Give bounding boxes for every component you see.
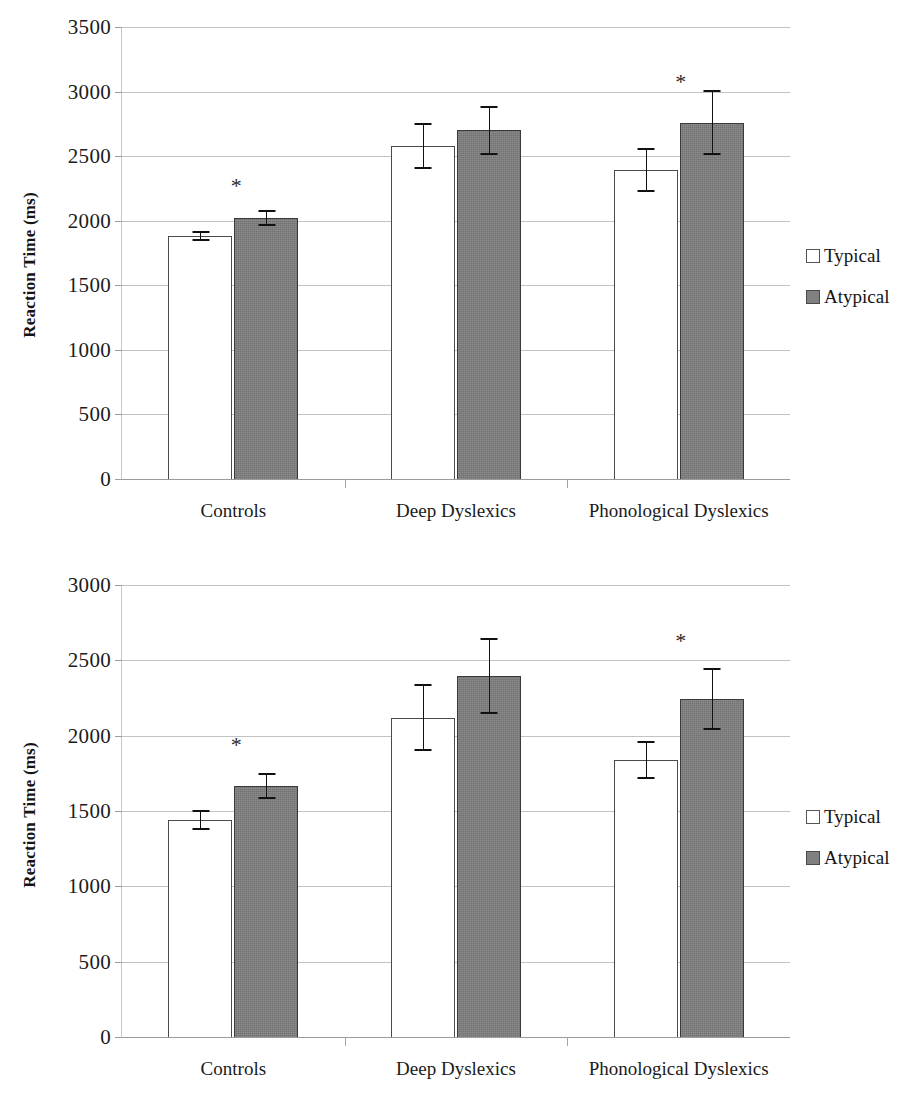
y-tick-label: 2000: [68, 723, 111, 748]
plot-area-bottom: 050010001500200025003000ControlsDeep Dys…: [122, 585, 790, 1037]
error-bar: [646, 741, 647, 779]
legend-item: Atypical: [806, 286, 889, 308]
y-tick-label: 1500: [68, 273, 111, 298]
error-bar-cap: [704, 153, 721, 155]
legend-item: Typical: [806, 806, 889, 828]
error-bar: [712, 668, 713, 730]
error-bar-cap: [704, 728, 721, 730]
y-tick-mark: [115, 27, 122, 28]
y-tick-label: 1000: [68, 874, 111, 899]
error-bar: [200, 231, 201, 241]
legend-label: Atypical: [824, 847, 889, 869]
y-tick-mark: [115, 414, 122, 415]
y-axis-title-top: Reaction Time (ms): [20, 140, 48, 390]
y-tick-mark: [115, 156, 122, 157]
y-tick-label: 0: [100, 1025, 111, 1050]
group-separator-tick: [345, 479, 346, 488]
legend-item: Typical: [806, 245, 889, 267]
error-bar: [712, 90, 713, 155]
bar-atypical: [234, 786, 298, 1037]
y-tick-label: 500: [79, 949, 111, 974]
y-tick-label: 1000: [68, 337, 111, 362]
bar-atypical: [457, 130, 521, 479]
bar-atypical: [680, 123, 744, 479]
x-axis-category-label: Deep Dyslexics: [396, 1058, 516, 1080]
legend-swatch-typical-icon: [806, 249, 820, 263]
error-bar-cap: [638, 741, 655, 743]
error-bar-cap: [481, 153, 498, 155]
group-separator-tick: [567, 479, 568, 488]
group-separator-tick: [345, 1037, 346, 1046]
significance-star: *: [675, 630, 686, 652]
x-axis-category-label: Phonological Dyslexics: [589, 500, 769, 522]
bar-typical: [391, 146, 455, 479]
y-tick-mark: [115, 1037, 122, 1038]
y-tick-mark: [115, 221, 122, 222]
legend-label: Typical: [824, 806, 881, 828]
legend-swatch-atypical-icon: [806, 290, 820, 304]
y-tick-label: 3000: [68, 79, 111, 104]
y-tick-mark: [115, 350, 122, 351]
error-bar-cap: [192, 239, 209, 241]
error-bar: [266, 773, 267, 799]
bar-typical: [614, 760, 678, 1037]
legend-item: Atypical: [806, 847, 889, 869]
legend-top: TypicalAtypical: [806, 245, 889, 327]
legend-swatch-typical-icon: [806, 810, 820, 824]
legend-bottom: TypicalAtypical: [806, 806, 889, 888]
y-tick-label: 500: [79, 402, 111, 427]
error-bar: [489, 638, 490, 713]
error-bar-cap: [638, 777, 655, 779]
error-bar-cap: [258, 224, 275, 226]
error-bar-cap: [258, 210, 275, 212]
y-tick-mark: [115, 585, 122, 586]
legend-swatch-atypical-icon: [806, 851, 820, 865]
y-axis-title-bottom: Reaction Time (ms): [20, 690, 48, 940]
error-bar-cap: [415, 167, 432, 169]
plot-inner-bottom: 050010001500200025003000ControlsDeep Dys…: [122, 585, 790, 1037]
error-bar: [200, 810, 201, 830]
y-tick-label: 2000: [68, 208, 111, 233]
bar-group: Deep Dyslexics: [345, 27, 568, 479]
error-bar-cap: [481, 638, 498, 640]
error-bar-cap: [415, 684, 432, 686]
y-tick-label: 0: [100, 467, 111, 492]
chart-panel-bottom: Reaction Time (ms) 050010001500200025003…: [0, 558, 912, 1116]
bar-typical: [614, 170, 678, 479]
gridline: [122, 479, 790, 480]
error-bar: [266, 210, 267, 225]
error-bar-cap: [638, 148, 655, 150]
significance-star: *: [231, 175, 242, 197]
error-bar: [423, 684, 424, 752]
y-tick-label: 2500: [68, 144, 111, 169]
bar-group: Deep Dyslexics: [345, 585, 568, 1037]
figure-two-bar-charts: Reaction Time (ms) 050010001500200025003…: [0, 0, 912, 1116]
error-bar-cap: [415, 123, 432, 125]
error-bar-cap: [192, 828, 209, 830]
y-tick-mark: [115, 479, 122, 480]
x-axis-category-label: Controls: [201, 500, 266, 522]
x-axis-category-label: Controls: [201, 1058, 266, 1080]
legend-label: Atypical: [824, 286, 889, 308]
chart-panel-top: Reaction Time (ms) 050010001500200025003…: [0, 0, 912, 558]
y-tick-mark: [115, 92, 122, 93]
error-bar-cap: [258, 773, 275, 775]
bar-group: Controls: [122, 585, 345, 1037]
error-bar-cap: [481, 712, 498, 714]
error-bar-cap: [192, 231, 209, 233]
bar-atypical: [680, 699, 744, 1037]
y-tick-mark: [115, 285, 122, 286]
y-tick-label: 1500: [68, 799, 111, 824]
y-tick-mark: [115, 811, 122, 812]
error-bar-cap: [638, 190, 655, 192]
error-bar-cap: [415, 749, 432, 751]
x-axis-category-label: Deep Dyslexics: [396, 500, 516, 522]
bar-group: Phonological Dyslexics: [567, 27, 790, 479]
bar-group: Controls: [122, 27, 345, 479]
error-bar: [489, 106, 490, 155]
legend-label: Typical: [824, 245, 881, 267]
y-tick-mark: [115, 886, 122, 887]
error-bar-cap: [258, 797, 275, 799]
plot-inner-top: 0500100015002000250030003500ControlsDeep…: [122, 27, 790, 479]
significance-star: *: [675, 71, 686, 93]
